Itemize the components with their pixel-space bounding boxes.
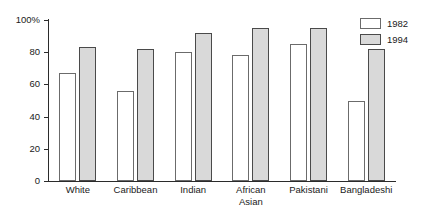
x-axis-tick-label: African Asian bbox=[222, 184, 280, 207]
x-axis-tick-label: Pakistani bbox=[280, 184, 338, 207]
legend-label-1982: 1982 bbox=[387, 18, 408, 30]
y-axis-tick-mark bbox=[44, 181, 48, 182]
bar-chart: 020406080100% WhiteCaribbeanIndianAfrica… bbox=[0, 0, 425, 223]
bar-group bbox=[107, 20, 165, 181]
legend-item-1994: 1994 bbox=[360, 32, 408, 47]
bar-1994-pakistani bbox=[310, 28, 327, 181]
bar-group bbox=[280, 20, 338, 181]
y-axis-tick-mark bbox=[44, 117, 48, 118]
y-axis-tick-label: 40 bbox=[0, 110, 40, 123]
bar-1994-indian bbox=[195, 33, 212, 181]
bar-1994-african-asian bbox=[252, 28, 269, 181]
y-axis-tick-label: 100% bbox=[0, 13, 40, 26]
x-axis-category-labels: WhiteCaribbeanIndianAfrican AsianPakista… bbox=[49, 184, 395, 207]
bar-1994-caribbean bbox=[137, 49, 154, 181]
y-axis-tick-label: 80 bbox=[0, 45, 40, 58]
bar-1994-bangladeshi bbox=[368, 49, 385, 181]
x-axis-tick-label: Indian bbox=[164, 184, 222, 207]
y-axis-tick-mark bbox=[44, 52, 48, 53]
bar-1982-indian bbox=[175, 52, 192, 181]
bar-1982-bangladeshi bbox=[348, 101, 365, 182]
bar-1982-african-asian bbox=[232, 55, 249, 181]
bar-group bbox=[222, 20, 280, 181]
y-axis-tick-label: 0 bbox=[0, 174, 40, 187]
bar-1982-white bbox=[59, 73, 76, 181]
bar-group bbox=[49, 20, 107, 181]
x-axis-tick-label: White bbox=[49, 184, 107, 207]
y-axis-tick-label: 60 bbox=[0, 77, 40, 90]
x-axis-line bbox=[48, 181, 396, 182]
chart-legend: 1982 1994 bbox=[360, 16, 408, 48]
bar-1994-white bbox=[79, 47, 96, 181]
y-axis-tick-mark bbox=[44, 149, 48, 150]
y-axis-tick-label: 20 bbox=[0, 142, 40, 155]
y-axis-tick-mark bbox=[44, 20, 48, 21]
x-axis-tick-label: Caribbean bbox=[107, 184, 165, 207]
legend-swatch-1982 bbox=[360, 18, 381, 29]
bar-1982-caribbean bbox=[117, 91, 134, 181]
bar-groups bbox=[49, 20, 395, 181]
legend-item-1982: 1982 bbox=[360, 16, 408, 31]
bar-1982-pakistani bbox=[290, 44, 307, 181]
x-axis-tick-label: Bangladeshi bbox=[337, 184, 395, 207]
legend-swatch-1994 bbox=[360, 34, 381, 45]
bar-group bbox=[164, 20, 222, 181]
y-axis-tick-mark bbox=[44, 84, 48, 85]
legend-label-1994: 1994 bbox=[387, 34, 408, 46]
